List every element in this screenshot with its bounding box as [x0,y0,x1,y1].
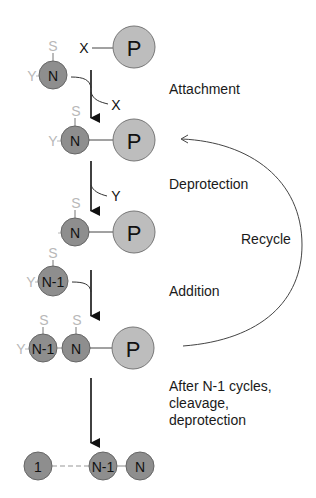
step-attachment: Attachment [169,81,240,97]
final-step-line2: cleavage, [169,395,229,411]
free-residue-n: S Y N [27,38,67,89]
residue-n-label: N [48,68,58,84]
side-chain-protect-s: S [39,312,48,328]
residue-n-label: N [70,133,80,149]
row3-deprotected-peptide-resin: S N P [58,195,155,253]
residue-n-minus-1-label: N-1 [92,459,115,475]
step-deprotection: Deprotection [169,176,248,192]
side-chain-protect-s: S [48,38,57,54]
alpha-protect-y: Y [16,341,26,357]
deprotection-arrow: Y [91,161,121,211]
released-x: X [111,97,121,113]
step-recycle: Recycle [241,231,291,247]
leaving-group-x: X [79,40,89,56]
residue-n-minus-1-label: N-1 [32,341,55,357]
final-peptide: 1 N-1 N [24,452,154,480]
addition-arrow [72,270,91,316]
alpha-protect-y: Y [27,68,37,84]
resin-label: P [127,221,142,246]
resin-label: P [127,36,142,61]
residue-n-minus-1-label: N-1 [42,274,65,290]
synthesis-diagram: X P S Y N X Attachment S Y N P Y Deprote… [0,0,316,498]
final-step-line1: After N-1 cycles, [169,378,272,394]
resin-label: P [126,337,141,362]
residue-n-label: N [70,225,80,241]
side-chain-protect-s: S [72,312,81,328]
alpha-protect-y: Y [48,133,58,149]
final-step-line3: deprotection [169,412,246,428]
alpha-protect-y: Y [26,274,36,290]
released-y: Y [111,188,121,204]
residue-n-label: N [71,341,81,357]
step-addition: Addition [169,283,220,299]
side-chain-protect-s: S [48,245,57,261]
row4-elongated-peptide-resin: S S Y N-1 N P [16,312,154,369]
residue-1-label: 1 [34,459,42,475]
side-chain-protect-s: S [71,195,80,211]
free-residue-n-minus-1: S Y N-1 [26,245,68,296]
resin-label: P [127,129,142,154]
side-chain-protect-s: S [71,103,80,119]
row2-protected-peptide-resin: S Y N P [48,103,155,161]
residue-n-label: N [135,459,145,475]
resin-with-leaving-group: X P [79,26,155,68]
